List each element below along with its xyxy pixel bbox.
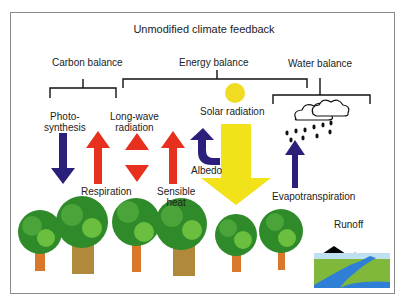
runoff-label: Runoff (334, 219, 363, 230)
longwave-radiation-arrow (125, 133, 149, 182)
sensible-heat-label: Sensible heat (157, 186, 195, 208)
diagram-graphics (0, 0, 408, 300)
respiration-arrow (86, 131, 110, 184)
evapotranspiration-arrow (285, 140, 305, 188)
sensible-heat-label-line2: heat (157, 197, 195, 208)
longwave-label: Long-wave radiation (110, 111, 159, 133)
river-landscape (314, 253, 390, 288)
solar-radiation-label: Solar radiation (200, 106, 264, 117)
photosynthesis-label-line1: Photo- (44, 111, 86, 122)
sensible-heat-label-line1: Sensible (157, 186, 195, 197)
longwave-label-line2: radiation (110, 122, 159, 133)
longwave-label-line1: Long-wave (110, 111, 159, 122)
photosynthesis-label: Photo- synthesis (44, 111, 86, 133)
bracket-lines (50, 70, 370, 104)
evapotranspiration-label: Evapotranspiration (272, 191, 355, 202)
sun-icon (225, 83, 245, 103)
raindrops (285, 121, 332, 143)
photosynthesis-label-line2: synthesis (44, 122, 86, 133)
albedo-label: Albedo (191, 165, 222, 176)
cloud-rain-icon (295, 100, 349, 120)
albedo-arrow (190, 128, 220, 165)
respiration-label: Respiration (81, 186, 132, 197)
sensible-heat-arrow (161, 131, 185, 184)
photosynthesis-arrow (51, 133, 75, 184)
trees (18, 196, 303, 276)
